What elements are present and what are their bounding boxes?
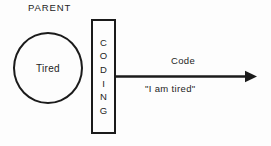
tired-circle-label: Tired: [13, 32, 83, 104]
diagram-canvas: PARENT Tired C O D I N G Code "I am tire…: [0, 0, 271, 146]
coding-letter-i: I: [102, 79, 105, 89]
code-arrow-label-below: "I am tired": [145, 84, 196, 94]
parent-label: PARENT: [28, 3, 71, 13]
coding-letter-g: G: [100, 106, 107, 116]
code-arrow-label-above: Code: [171, 56, 195, 66]
coding-letter-c: C: [100, 38, 107, 48]
coding-letter-n: N: [100, 92, 107, 102]
coding-letter-o: O: [100, 51, 107, 61]
coding-letter-d: D: [100, 65, 107, 75]
